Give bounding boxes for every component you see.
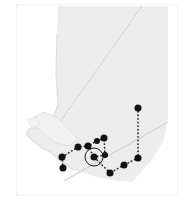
map-marker[interactable] (75, 144, 82, 151)
map-marker[interactable] (85, 143, 92, 150)
map-marker[interactable] (135, 155, 142, 162)
map-marker-selected[interactable] (91, 154, 98, 161)
map-marker[interactable] (59, 154, 66, 161)
map-marker[interactable] (60, 165, 67, 172)
map-marker[interactable] (101, 135, 108, 142)
map-marker[interactable] (121, 162, 128, 169)
markers-layer (0, 0, 194, 217)
map-figure (0, 0, 194, 217)
map-marker[interactable] (107, 170, 114, 177)
map-marker[interactable] (94, 138, 100, 144)
map-marker[interactable] (135, 105, 142, 112)
